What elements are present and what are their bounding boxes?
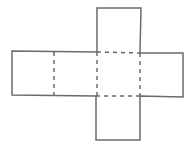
net-outline [12, 8, 183, 140]
cube-net-diagram [0, 0, 193, 149]
fold-line-top [97, 52, 140, 53]
outline [12, 8, 183, 140]
fold-lines [54, 52, 140, 96]
